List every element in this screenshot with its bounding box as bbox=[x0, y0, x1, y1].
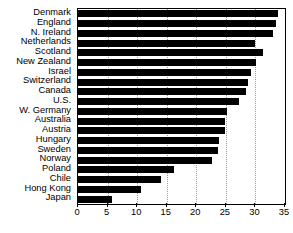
x-tick-label-0: 0 bbox=[74, 207, 79, 218]
bar-u-s bbox=[78, 98, 239, 105]
x-tick-mark-20 bbox=[195, 203, 196, 207]
category-axis-labels: DenmarkEnglandN. IrelandNetherlandsScotl… bbox=[0, 8, 74, 203]
x-tick-mark-25 bbox=[225, 203, 226, 207]
bar-row bbox=[78, 137, 285, 144]
x-tick-label-5: 5 bbox=[104, 207, 109, 218]
bar-row bbox=[78, 196, 285, 203]
x-tick-label-30: 30 bbox=[249, 207, 259, 218]
bar-row bbox=[78, 176, 285, 183]
x-tick-mark-15 bbox=[166, 203, 167, 207]
x-tick-label-15: 15 bbox=[161, 207, 171, 218]
x-tick-label-35: 35 bbox=[279, 207, 289, 218]
category-label: U.S. bbox=[53, 96, 71, 105]
bar-row bbox=[78, 30, 285, 37]
bar-row bbox=[78, 79, 285, 86]
bar-chart: DenmarkEnglandN. IrelandNetherlandsScotl… bbox=[0, 0, 293, 233]
bar-chile bbox=[78, 176, 161, 183]
x-tick-mark-30 bbox=[254, 203, 255, 207]
plot-area bbox=[77, 8, 286, 205]
bar-new-zealand bbox=[78, 59, 256, 66]
bars-layer bbox=[78, 9, 285, 204]
bar-row bbox=[78, 186, 285, 193]
x-tick-mark-10 bbox=[136, 203, 137, 207]
bar-poland bbox=[78, 166, 174, 173]
category-label: Hungary bbox=[36, 135, 71, 144]
bar-hong-kong bbox=[78, 186, 141, 193]
bar-hungary bbox=[78, 137, 219, 144]
x-tick-mark-35 bbox=[284, 203, 285, 207]
bar-netherlands bbox=[78, 40, 255, 47]
bar-row bbox=[78, 118, 285, 125]
bar-n-ireland bbox=[78, 30, 273, 37]
bar-england bbox=[78, 20, 276, 27]
bar-row bbox=[78, 10, 285, 17]
bar-canada bbox=[78, 88, 246, 95]
bar-japan bbox=[78, 196, 112, 203]
bar-norway bbox=[78, 157, 212, 164]
bar-row bbox=[78, 157, 285, 164]
x-tick-mark-0 bbox=[77, 203, 78, 207]
bar-australia bbox=[78, 118, 225, 125]
x-tick-label-25: 25 bbox=[220, 207, 230, 218]
category-label: New Zealand bbox=[16, 57, 71, 66]
x-tick-mark-5 bbox=[107, 203, 108, 207]
bar-row bbox=[78, 49, 285, 56]
bar-row bbox=[78, 20, 285, 27]
x-tick-label-10: 10 bbox=[131, 207, 141, 218]
bar-sweden bbox=[78, 147, 218, 154]
bar-row bbox=[78, 127, 285, 134]
bar-row bbox=[78, 166, 285, 173]
category-label: Chile bbox=[50, 174, 71, 183]
bar-austria bbox=[78, 127, 225, 134]
bar-row bbox=[78, 88, 285, 95]
category-label: England bbox=[37, 18, 71, 27]
bar-denmark bbox=[78, 10, 278, 17]
bar-switzerland bbox=[78, 79, 248, 86]
bar-w-germany bbox=[78, 108, 227, 115]
bar-row bbox=[78, 108, 285, 115]
category-label: Japan bbox=[46, 193, 71, 202]
bar-row bbox=[78, 40, 285, 47]
bar-row bbox=[78, 59, 285, 66]
bar-scotland bbox=[78, 49, 263, 56]
x-tick-label-20: 20 bbox=[190, 207, 200, 218]
bar-row bbox=[78, 98, 285, 105]
bar-row bbox=[78, 69, 285, 76]
value-axis-labels: 05101520253035 bbox=[77, 207, 284, 223]
bar-israel bbox=[78, 69, 251, 76]
bar-row bbox=[78, 147, 285, 154]
